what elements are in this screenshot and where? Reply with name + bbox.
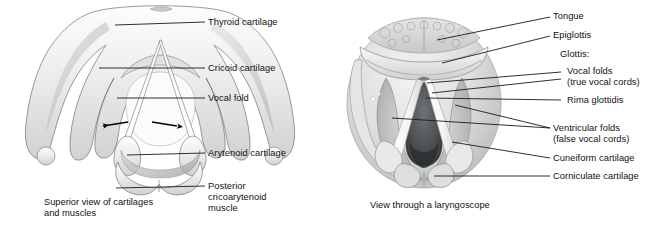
label-epiglottis: Epiglottis (553, 30, 591, 41)
panel-b-illustration (347, 17, 561, 188)
label-arytenoid-cartilage: Arytenoid cartilage (208, 148, 286, 159)
label-cuneiform-cartilage: Cuneiform cartilage (553, 153, 635, 164)
label-rima-glottidis: Rima glottidis (567, 95, 624, 106)
label-thyroid-cartilage: Thyroid cartilage (208, 17, 278, 28)
label-glottis-heading: Glottis: (560, 49, 589, 60)
label-vocal-folds-line1: Vocal folds (567, 66, 613, 77)
panel-a-caption-line1: Superior view of cartilages (44, 197, 153, 208)
label-corniculate-cartilage: Corniculate cartilage (553, 171, 639, 182)
larynx-figure: Thyroid cartilage Cricoid cartilage Voca… (0, 0, 661, 229)
label-vocal-folds-line2: (true vocal cords) (567, 77, 640, 88)
label-tongue: Tongue (553, 11, 584, 22)
panel-a-caption-line2: and muscles (44, 208, 96, 219)
inferior-horn-left (37, 147, 55, 165)
label-cricoid-cartilage: Cricoid cartilage (208, 63, 276, 74)
piriform-highlight-left-2 (378, 93, 381, 96)
panel-b-caption: View through a laryngoscope (370, 200, 490, 211)
label-ventricular-folds-line2: (false vocal cords) (553, 134, 629, 145)
panel-a-illustration (25, 6, 294, 195)
piriform-highlight-left (371, 97, 375, 101)
label-posterior-cricoarytenoid-muscle-line2: cricoarytenoid (208, 192, 267, 203)
label-posterior-cricoarytenoid-muscle-line1: Posterior (208, 181, 246, 192)
label-posterior-cricoarytenoid-muscle-line3: muscle (208, 203, 238, 214)
label-vocal-fold: Vocal fold (208, 93, 249, 104)
label-ventricular-folds-line1: Ventricular folds (553, 123, 620, 134)
